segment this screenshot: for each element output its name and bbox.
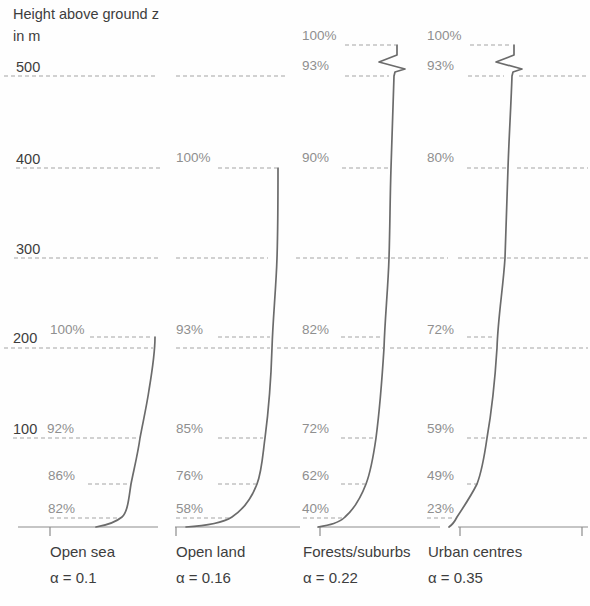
pct-urban-500m: 93% bbox=[427, 58, 454, 73]
pct-forests-400m: 90% bbox=[302, 150, 329, 165]
pct-forests-100m: 72% bbox=[302, 421, 329, 436]
pct-open-sea-50m: 86% bbox=[48, 468, 75, 483]
pct-open-land-200m: 93% bbox=[176, 322, 203, 337]
height-tick-300: 300 bbox=[16, 241, 40, 257]
pct-urban-100m: 59% bbox=[427, 421, 454, 436]
pct-forests-50m: 62% bbox=[302, 468, 329, 483]
pct-open-sea-100m: 92% bbox=[47, 421, 74, 436]
wind-profile-figure: Height above ground z in m 500 400 300 2… bbox=[0, 0, 590, 606]
pct-open-sea-10m: 82% bbox=[48, 501, 75, 516]
pct-urban-400m: 80% bbox=[427, 150, 454, 165]
pct-urban-200m: 72% bbox=[427, 322, 454, 337]
terrain-label-urban-centres: Urban centres bbox=[428, 543, 522, 560]
height-tick-200: 200 bbox=[13, 330, 37, 346]
pct-open-land-400m: 100% bbox=[176, 150, 211, 165]
height-tick-100: 100 bbox=[13, 421, 37, 437]
alpha-label-urban-centres: α = 0.35 bbox=[428, 569, 483, 586]
curve-urban-centres bbox=[449, 45, 522, 527]
pct-open-sea-200m: 100% bbox=[50, 322, 85, 337]
wind-profile-chart: Height above ground z in m 500 400 300 2… bbox=[0, 0, 590, 606]
y-axis-title-line1: Height above ground z bbox=[13, 6, 159, 22]
terrain-label-forests-suburbs: Forests/suburbs bbox=[303, 543, 411, 560]
pct-urban-top: 100% bbox=[427, 28, 462, 43]
terrain-label-open-land: Open land bbox=[176, 543, 245, 560]
height-tick-500: 500 bbox=[16, 59, 40, 75]
alpha-label-open-land: α = 0.16 bbox=[176, 569, 231, 586]
pct-open-land-100m: 85% bbox=[176, 421, 203, 436]
alpha-label-forests-suburbs: α = 0.22 bbox=[303, 569, 358, 586]
baseline-ticks bbox=[50, 527, 582, 536]
pct-forests-200m: 82% bbox=[302, 322, 329, 337]
alpha-label-open-sea: α = 0.1 bbox=[50, 569, 97, 586]
height-tick-400: 400 bbox=[16, 151, 40, 167]
curve-forests-suburbs bbox=[318, 45, 405, 527]
pct-urban-50m: 49% bbox=[427, 468, 454, 483]
curve-open-sea bbox=[96, 337, 155, 527]
pct-urban-10m: 23% bbox=[427, 501, 454, 516]
pct-open-land-50m: 76% bbox=[176, 468, 203, 483]
pct-open-land-10m: 58% bbox=[176, 501, 203, 516]
pct-forests-10m: 40% bbox=[302, 501, 329, 516]
terrain-label-open-sea: Open sea bbox=[50, 543, 116, 560]
pct-forests-top: 100% bbox=[302, 28, 337, 43]
pct-forests-500m: 93% bbox=[302, 58, 329, 73]
y-axis-title-line2: in m bbox=[13, 28, 40, 44]
